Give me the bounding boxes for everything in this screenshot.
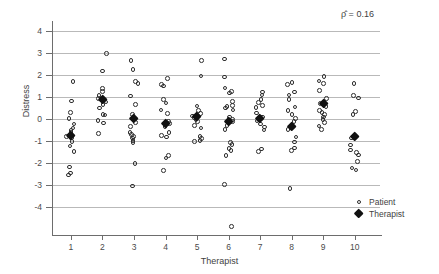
- patient-marker: [351, 112, 356, 117]
- y-axis-tick: [46, 97, 52, 98]
- patient-marker: [222, 182, 227, 187]
- patient-marker: [72, 149, 77, 154]
- patient-marker: [133, 102, 138, 107]
- patient-marker: [290, 80, 295, 85]
- x-axis-tick-label: 2: [92, 243, 112, 252]
- patient-marker: [167, 130, 172, 135]
- x-axis-tick: [355, 235, 356, 240]
- x-axis-tick: [260, 235, 261, 240]
- patient-marker: [292, 140, 297, 145]
- y-axis-tick-label: 1: [14, 93, 42, 102]
- y-axis-tick: [46, 119, 52, 120]
- x-axis-tick: [166, 235, 167, 240]
- x-axis-tick-label: 9: [313, 243, 333, 252]
- patient-marker: [351, 93, 356, 98]
- y-axis-line: [52, 21, 53, 236]
- x-axis-tick-label: 10: [345, 243, 365, 252]
- y-axis-tick-label: -3: [14, 181, 42, 190]
- patient-marker: [222, 57, 227, 62]
- y-axis-tick-label: 3: [14, 49, 42, 58]
- patient-marker: [229, 148, 234, 153]
- patient-marker: [131, 140, 136, 145]
- patient-marker: [319, 127, 324, 132]
- y-axis-tick: [46, 185, 52, 186]
- patient-marker: [130, 184, 135, 189]
- open-circle-icon: [352, 200, 366, 205]
- patient-marker: [227, 91, 232, 96]
- patient-marker: [289, 148, 294, 153]
- patient-marker: [164, 135, 169, 140]
- patient-marker: [136, 81, 141, 86]
- patient-marker: [192, 123, 197, 128]
- chart-legend: Patient Therapist: [352, 196, 404, 220]
- patient-marker: [230, 103, 235, 108]
- patient-marker: [356, 96, 361, 101]
- legend-item-therapist: Therapist: [352, 208, 404, 220]
- patient-marker: [68, 110, 73, 115]
- patient-marker: [165, 111, 170, 116]
- y-axis-tick-label: 4: [14, 27, 42, 36]
- x-axis-tick: [292, 235, 293, 240]
- patient-marker: [67, 116, 72, 121]
- x-axis-tick-label: 5: [187, 243, 207, 252]
- y-axis-tick: [46, 75, 52, 76]
- patient-marker: [348, 148, 353, 153]
- patient-marker: [161, 168, 166, 173]
- patient-marker: [321, 81, 326, 86]
- patient-marker: [69, 99, 74, 104]
- scatter-plot-figure: Distress Therapist ρ̂ = 0.16 Patient The…: [0, 0, 439, 274]
- patient-marker: [128, 124, 133, 129]
- patient-marker: [223, 106, 228, 111]
- patient-marker: [198, 138, 203, 143]
- gridline: [52, 119, 380, 120]
- patient-marker: [285, 82, 290, 87]
- x-axis-tick: [134, 235, 135, 240]
- legend-label-therapist: Therapist: [366, 209, 404, 219]
- patient-marker: [199, 58, 204, 63]
- patient-marker: [129, 58, 134, 63]
- x-axis-tick: [229, 235, 230, 240]
- plot-area: [52, 22, 380, 236]
- y-axis-tick-label: -1: [14, 137, 42, 146]
- y-axis-tick-label: -2: [14, 159, 42, 168]
- patient-marker: [97, 106, 102, 111]
- y-axis-tick-label: 0: [14, 115, 42, 124]
- x-axis-tick-label: 3: [124, 243, 144, 252]
- x-axis-tick: [71, 235, 72, 240]
- x-axis-tick: [197, 235, 198, 240]
- patient-marker: [192, 139, 197, 144]
- patient-marker: [355, 159, 360, 164]
- x-axis-tick: [102, 235, 103, 240]
- gridline: [52, 163, 380, 164]
- patient-marker: [96, 118, 101, 123]
- legend-item-patient: Patient: [352, 196, 404, 208]
- patient-marker: [260, 103, 265, 108]
- patient-marker: [159, 133, 164, 138]
- gridline: [52, 185, 380, 186]
- y-axis-tick-label: -4: [14, 203, 42, 212]
- rho-annotation: ρ̂ = 0.16: [341, 9, 374, 19]
- patient-marker: [222, 75, 227, 80]
- patient-marker: [104, 51, 109, 56]
- gridline: [52, 31, 380, 32]
- y-axis-tick: [46, 163, 52, 164]
- y-axis-tick: [46, 207, 52, 208]
- patient-marker: [322, 120, 327, 125]
- gridline: [52, 53, 380, 54]
- patient-marker: [133, 161, 138, 166]
- x-axis-title: Therapist: [0, 256, 439, 266]
- y-axis-tick: [46, 53, 52, 54]
- x-axis-tick-label: 1: [61, 243, 81, 252]
- x-axis-tick-label: 4: [156, 243, 176, 252]
- patient-marker: [100, 69, 105, 74]
- x-axis-tick: [323, 235, 324, 240]
- patient-marker: [254, 105, 259, 110]
- gridline: [52, 75, 380, 76]
- y-axis-tick: [46, 141, 52, 142]
- patient-marker: [256, 149, 261, 154]
- y-axis-tick: [46, 31, 52, 32]
- patient-marker: [356, 153, 361, 158]
- patient-marker: [229, 224, 234, 229]
- y-axis-tick-label: 2: [14, 71, 42, 80]
- patient-marker: [165, 76, 170, 81]
